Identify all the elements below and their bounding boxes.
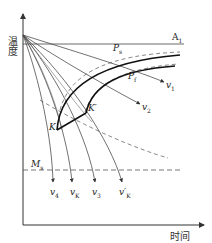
v4-label: v4 [50,188,59,199]
k-k-prime-line [57,113,86,130]
ms-label-text: M [31,159,40,169]
v2-label: v2 [142,103,151,114]
v1-label: v1 [166,81,175,92]
k-point-label: K [49,123,56,132]
x-axis-label: 时间 [170,232,190,242]
v4-label-sub: 4 [55,192,59,199]
ms-label: Ms [31,160,43,171]
v1-label-sub: 1 [171,85,175,92]
pf-label-sub: f [134,76,136,83]
a1-label-sub: 1 [179,37,183,44]
vk-label: vK [70,188,80,199]
y-axis-label: 温度 [6,36,16,56]
ps-label-sub: s [119,48,122,55]
vk-prime-label: v′K [119,188,131,199]
a1-label: A1 [172,33,182,44]
ps-label: Ps [113,44,122,55]
v3-label-sub: 3 [97,192,101,199]
vk-label-sub: K [75,192,79,199]
k-prime-point-label: K′ [88,104,97,113]
v3-label: v3 [92,188,101,199]
vk-prime-label-sub: K [126,192,130,199]
cooling-curve-v1 [23,35,164,82]
ms-label-sub: s [40,164,43,171]
pf-label: Pf [128,72,136,83]
v2-label-sub: 2 [147,107,151,114]
